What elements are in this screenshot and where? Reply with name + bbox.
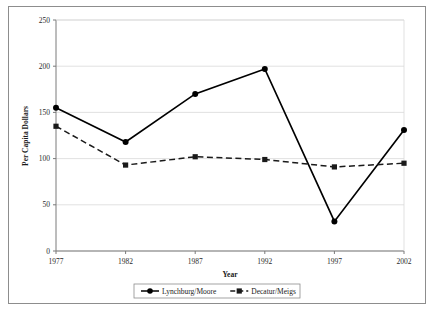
y-tick-label: 200 <box>39 62 51 71</box>
data-point-marker <box>193 154 198 159</box>
chart-figure: 050100150200250 197719821987199219972002… <box>0 0 434 312</box>
circle-marker <box>147 288 153 294</box>
data-point-marker <box>123 139 129 145</box>
x-tick-label: 1977 <box>49 257 64 266</box>
data-point-marker <box>123 162 128 167</box>
data-point-marker <box>53 124 58 129</box>
y-tick-label: 100 <box>39 154 51 163</box>
x-tick-label: 1992 <box>257 257 272 266</box>
y-tick-label: 150 <box>39 108 51 117</box>
x-tick-label: 1982 <box>118 257 133 266</box>
x-axis-tick-labels: 197719821987199219972002 <box>49 257 412 266</box>
y-tick-label: 0 <box>46 247 50 256</box>
square-marker <box>237 288 242 293</box>
x-tick-label: 1997 <box>327 257 342 266</box>
data-point-marker <box>53 105 59 111</box>
data-point-marker <box>262 157 267 162</box>
y-axis-tick-labels: 050100150200250 <box>39 16 51 256</box>
data-point-marker <box>401 127 407 133</box>
legend-label: Lynchburg/Moore <box>162 287 217 296</box>
y-tick-label: 250 <box>39 16 51 25</box>
plot-area-background <box>56 20 404 251</box>
x-tick-label: 2002 <box>397 257 412 266</box>
data-point-marker <box>401 161 406 166</box>
data-point-marker <box>262 66 268 72</box>
data-point-marker <box>332 164 337 169</box>
line-chart: 050100150200250 197719821987199219972002… <box>0 0 434 312</box>
legend-label: Decatur/Meigs <box>251 287 296 296</box>
x-axis-title: Year <box>223 270 239 279</box>
data-point-marker <box>331 218 337 224</box>
y-tick-label: 50 <box>43 200 51 209</box>
x-tick-label: 1987 <box>188 257 203 266</box>
y-axis-title: Per Capita Dollars <box>21 106 30 166</box>
chart-legend: Lynchburg/MooreDecatur/Meigs <box>134 284 300 298</box>
data-point-marker <box>192 91 198 97</box>
